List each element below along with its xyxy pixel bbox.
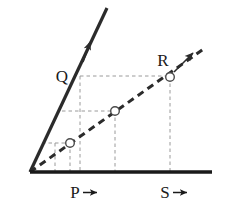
geometry-figure: Q R P S bbox=[0, 0, 226, 208]
label-p: P bbox=[70, 183, 79, 202]
label-s: S bbox=[160, 183, 169, 202]
marker-2 bbox=[111, 107, 120, 116]
label-r: R bbox=[157, 51, 169, 70]
guide-lines-vertical bbox=[55, 76, 170, 172]
figure-canvas: Q R P S bbox=[0, 0, 226, 208]
label-q: Q bbox=[56, 67, 68, 86]
q-direction-arrow-icon bbox=[83, 42, 90, 62]
marker-1 bbox=[66, 139, 75, 148]
r-direction-arrow-icon bbox=[174, 53, 193, 72]
guide-lines bbox=[42, 76, 170, 172]
marker-r bbox=[166, 73, 175, 82]
